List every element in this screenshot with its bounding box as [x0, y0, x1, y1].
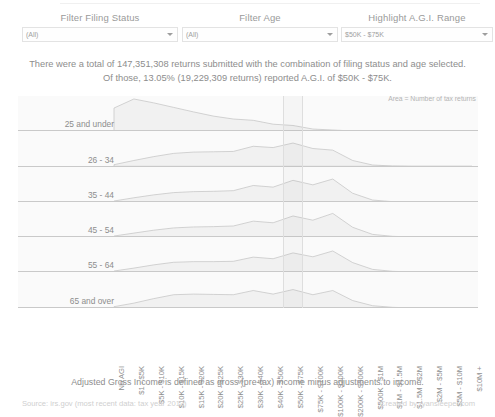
filter-filing-status-value: (All)	[26, 29, 38, 40]
chart-row-label: 65 and over	[18, 296, 114, 306]
chart-row: 26 - 34	[18, 131, 478, 166]
chevron-down-icon	[167, 33, 173, 36]
filter-agi-range-value: $50K - $75K	[345, 29, 384, 40]
chart-row-label: 35 - 44	[18, 190, 114, 200]
chart-panel: Area = Number of tax returns 25 and unde…	[18, 96, 478, 308]
x-axis-tick-label: $20K - $25K	[216, 366, 225, 408]
filter-filing-status-label: Filter Filing Status	[22, 12, 178, 24]
top-divider	[60, 3, 480, 4]
chart-row: 45 - 54	[18, 202, 478, 237]
credit-note: Created by ryansleeper.com	[380, 399, 475, 408]
chart-row-label: 55 - 64	[18, 260, 114, 270]
headline-line-1: There were a total of 147,351,308 return…	[0, 58, 495, 72]
chart-row: 65 and over	[18, 273, 478, 308]
chart-row-label: 45 - 54	[18, 225, 114, 235]
x-axis-tick-label: $30K - $40K	[256, 366, 265, 408]
chart-row: 55 - 64	[18, 237, 478, 272]
chart-row: 25 and under	[18, 96, 478, 131]
x-axis-tick-label: $15K - $20K	[197, 366, 206, 408]
x-axis-tick-label: $75K - $100K	[316, 366, 325, 412]
chevron-down-icon	[327, 33, 333, 36]
filter-filing-status: Filter Filing Status (All)	[22, 12, 178, 42]
filter-age-dropdown[interactable]: (All)	[182, 27, 338, 42]
x-axis-tick-label: $100K - $200K	[336, 366, 345, 417]
x-axis-tick-label: $40K - $50K	[276, 366, 285, 408]
chart-row-label: 26 - 34	[18, 155, 114, 165]
headline-line-2: Of those, 13.05% (19,229,309 returns) re…	[0, 72, 495, 86]
headline-summary: There were a total of 147,351,308 return…	[0, 58, 495, 85]
x-axis-tick-label: $50K - $75K	[296, 366, 305, 408]
chevron-down-icon	[482, 33, 488, 36]
chart-row-label: 25 and under	[18, 119, 114, 129]
filter-filing-status-dropdown[interactable]: (All)	[22, 27, 178, 42]
agi-definition: Adjusted Gross Income is defined as gros…	[0, 377, 495, 387]
source-note: Source: irs.gov (most recent data: tax y…	[22, 399, 187, 408]
filter-age-label: Filter Age	[182, 12, 338, 24]
x-axis-labels: No AGI$1 - $5K$5K - $10K$10K - $15K$15K …	[18, 308, 478, 370]
x-axis-tick-label: $25K - $30K	[236, 366, 245, 408]
chart-row: 35 - 44	[18, 167, 478, 202]
filter-agi-range-label: Highlight A.G.I. Range	[341, 12, 493, 24]
filter-bar: Filter Filing Status (All) Filter Age (A…	[0, 12, 495, 48]
filter-agi-range-dropdown[interactable]: $50K - $75K	[341, 27, 493, 42]
filter-age-value: (All)	[186, 29, 198, 40]
x-axis-tick-label: $200K - $500K	[356, 366, 365, 417]
filter-age: Filter Age (All)	[182, 12, 338, 42]
filter-agi-range: Highlight A.G.I. Range $50K - $75K	[341, 12, 493, 42]
